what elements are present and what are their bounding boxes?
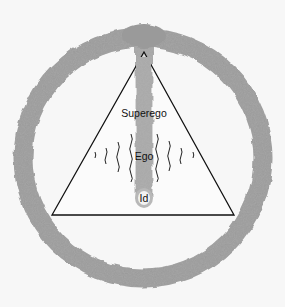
psyche-diagram: Superego Ego Id	[0, 0, 285, 307]
ego-label: Ego	[135, 150, 154, 162]
inner-column	[136, 56, 152, 196]
id-label: Id	[140, 192, 149, 204]
superego-label: Superego	[121, 107, 167, 119]
